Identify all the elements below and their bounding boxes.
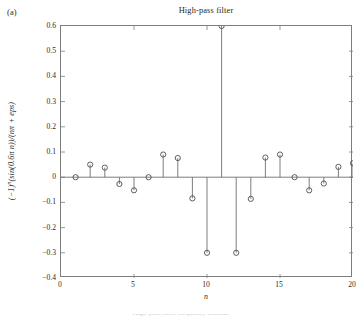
y-axis-tick-labels: −0.4−0.3−0.2−0.100.10.20.30.40.50.6 xyxy=(26,25,56,277)
y-tick-label: 0.5 xyxy=(28,46,56,55)
y-tick-label: 0.4 xyxy=(28,71,56,80)
chart-title: High-pass filter xyxy=(60,6,352,15)
x-axis-label: n xyxy=(60,292,352,301)
x-tick-label: 5 xyxy=(120,280,146,289)
y-axis-label-exponent: n xyxy=(6,182,12,185)
y-tick-label: −0.3 xyxy=(28,247,56,256)
y-axis-label-prefix: (−1) xyxy=(7,185,16,200)
plot-inner xyxy=(61,26,351,276)
figure-panel: (a) High-pass filter (−1)n(sin(0.6π n))/… xyxy=(0,0,361,330)
y-tick-label: 0.3 xyxy=(28,96,56,105)
y-tick-label: 0.2 xyxy=(28,121,56,130)
x-tick-label: 10 xyxy=(193,280,219,289)
figure-caption: High-pass filter frequency domain xyxy=(132,314,228,317)
stem-plot-svg xyxy=(61,26,353,278)
y-axis-label-rest: (sin(0.6π n))/(nπ + eps) xyxy=(7,102,16,182)
plot-area xyxy=(60,25,352,277)
y-axis-label: (−1)n(sin(0.6π n))/(nπ + eps) xyxy=(6,102,17,200)
y-tick-label: −0.1 xyxy=(28,197,56,206)
x-tick-label: 15 xyxy=(266,280,292,289)
y-tick-label: 0.6 xyxy=(28,21,56,30)
x-tick-label: 20 xyxy=(339,280,361,289)
stem-series xyxy=(73,26,353,255)
y-tick-label: 0.1 xyxy=(28,147,56,156)
panel-label: (a) xyxy=(7,7,17,17)
y-axis-label-container: (−1)n(sin(0.6π n))/(nπ + eps) xyxy=(0,25,22,277)
y-tick-label: −0.2 xyxy=(28,222,56,231)
figure-caption-strip: High-pass filter frequency domain xyxy=(0,314,361,330)
y-tick-label: 0 xyxy=(28,172,56,181)
x-tick-label: 0 xyxy=(47,280,73,289)
